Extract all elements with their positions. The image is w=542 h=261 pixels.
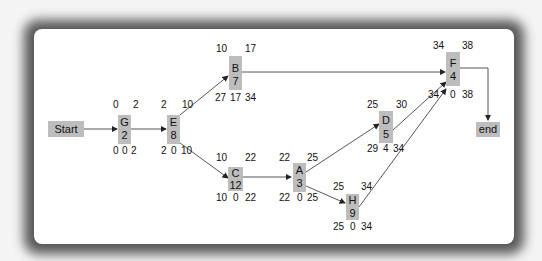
g-ef: 2 <box>133 99 139 110</box>
f-ls: 34 <box>428 89 439 100</box>
h-ef: 34 <box>361 181 372 192</box>
h-es: 25 <box>333 181 344 192</box>
d-ef: 30 <box>396 99 407 110</box>
b-es: 10 <box>216 43 227 54</box>
c-ef: 22 <box>245 152 256 163</box>
e-slack: 0 <box>171 145 177 156</box>
e-ls: 2 <box>161 145 167 156</box>
node-e-duration: 8 <box>167 129 180 142</box>
node-c: C 12 <box>228 167 243 191</box>
g-ls: 0 <box>113 145 119 156</box>
d-lf: 34 <box>393 143 404 154</box>
node-h: H 9 <box>346 194 359 220</box>
d-ls: 29 <box>367 143 378 154</box>
f-slack: 0 <box>450 89 456 100</box>
f-ef: 38 <box>462 40 473 51</box>
e-es: 2 <box>161 99 167 110</box>
node-h-name: H <box>346 194 359 207</box>
f-es: 34 <box>433 40 444 51</box>
node-end-label: end <box>479 123 497 135</box>
node-start: Start <box>48 121 84 137</box>
node-f-duration: 4 <box>446 70 460 83</box>
e-lf: 10 <box>181 145 192 156</box>
node-d: D 5 <box>379 111 393 143</box>
b-lf: 34 <box>245 92 256 103</box>
d-es: 25 <box>367 99 378 110</box>
a-ef: 25 <box>307 152 318 163</box>
c-slack: 0 <box>233 192 239 203</box>
node-b-duration: 7 <box>229 75 242 88</box>
b-ef: 17 <box>245 43 256 54</box>
h-ls: 25 <box>333 221 344 232</box>
node-g-duration: 2 <box>118 129 131 142</box>
g-slack: 0 <box>122 145 128 156</box>
node-h-duration: 9 <box>346 207 359 220</box>
node-d-duration: 5 <box>379 127 393 141</box>
a-ls: 22 <box>279 192 290 203</box>
e-ef: 10 <box>182 99 193 110</box>
node-g-name: G <box>118 116 131 129</box>
h-slack: 0 <box>350 221 356 232</box>
node-end: end <box>476 122 500 137</box>
node-a: A 3 <box>293 163 306 192</box>
node-e-name: E <box>167 116 180 129</box>
c-lf: 22 <box>245 192 256 203</box>
c-es: 10 <box>216 152 227 163</box>
c-ls: 10 <box>216 192 227 203</box>
node-e: E 8 <box>167 115 180 144</box>
node-d-name: D <box>379 113 393 127</box>
b-ls: 27 <box>215 92 226 103</box>
node-b-name: B <box>229 62 242 75</box>
a-slack: 0 <box>297 192 303 203</box>
g-lf: 2 <box>131 145 137 156</box>
a-lf: 25 <box>307 192 318 203</box>
d-slack: 4 <box>383 143 389 154</box>
node-c-name: C <box>228 167 243 179</box>
node-start-label: Start <box>54 123 77 135</box>
node-b: B 7 <box>229 56 242 90</box>
g-es: 0 <box>113 99 119 110</box>
node-a-name: A <box>293 164 306 177</box>
a-es: 22 <box>279 152 290 163</box>
h-lf: 34 <box>361 221 372 232</box>
node-a-duration: 3 <box>293 177 306 190</box>
node-g: G 2 <box>118 115 131 144</box>
node-f: F 4 <box>446 52 460 86</box>
node-c-duration: 12 <box>228 179 243 191</box>
f-lf: 38 <box>462 89 473 100</box>
b-slack: 17 <box>230 92 241 103</box>
node-f-name: F <box>446 57 460 70</box>
